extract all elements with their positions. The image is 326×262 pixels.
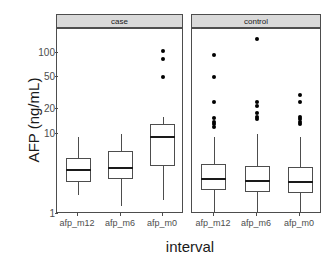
outlier-point bbox=[255, 37, 259, 41]
facet-strip-control: control bbox=[191, 14, 321, 28]
box-median-line bbox=[245, 180, 270, 182]
x-axis-tick-label: afp_m12 bbox=[59, 218, 94, 228]
y-axis-tick-label: 10 bbox=[44, 127, 55, 138]
outlier-point bbox=[212, 75, 216, 79]
box-median-line bbox=[66, 169, 91, 171]
x-axis-tick-mark bbox=[77, 213, 78, 216]
box-whisker-upper bbox=[214, 137, 215, 164]
box-whisker-lower bbox=[214, 190, 215, 213]
outlier-point bbox=[161, 75, 165, 79]
box-whisker-upper bbox=[300, 137, 301, 167]
outlier-point bbox=[212, 100, 216, 104]
y-axis-tick-mark bbox=[55, 52, 58, 53]
x-axis-tick-label: afp_m0 bbox=[284, 218, 314, 228]
y-axis-tick-label: 50 bbox=[44, 71, 55, 82]
outlier-point bbox=[212, 53, 216, 57]
boxplot-chart: AFP (ng/mL) 1102050100 case control inte… bbox=[0, 0, 326, 262]
box-whisker-upper bbox=[257, 134, 258, 166]
outlier-point bbox=[255, 100, 259, 104]
facet-panel-case bbox=[56, 28, 183, 213]
x-axis-tick-label: afp_m0 bbox=[147, 218, 177, 228]
box-median-line bbox=[150, 136, 175, 138]
box-whisker-lower bbox=[163, 166, 164, 200]
y-axis-tick-mark bbox=[55, 108, 58, 109]
x-axis-tick-label: afp_m6 bbox=[105, 218, 135, 228]
x-axis-tick-mark bbox=[299, 213, 300, 216]
y-axis-tick-mark bbox=[55, 213, 58, 214]
box-whisker-upper bbox=[163, 117, 164, 124]
x-axis-tick-label: afp_m12 bbox=[195, 218, 230, 228]
box-whisker-lower bbox=[78, 182, 79, 195]
outlier-point bbox=[212, 116, 216, 120]
box-whisker-lower bbox=[257, 192, 258, 213]
outlier-point bbox=[298, 93, 302, 97]
box-median-line bbox=[108, 167, 133, 169]
outlier-point bbox=[212, 120, 216, 124]
outlier-point bbox=[255, 111, 259, 115]
box-iqr bbox=[150, 124, 175, 165]
outlier-point bbox=[161, 57, 165, 61]
x-axis-title: interval bbox=[55, 238, 325, 256]
x-axis-tick-mark bbox=[256, 213, 257, 216]
facet-strip-case: case bbox=[56, 14, 183, 28]
y-axis-tick-label: 20 bbox=[44, 103, 55, 114]
box-iqr bbox=[245, 166, 270, 192]
x-axis-tick-label: afp_m6 bbox=[241, 218, 271, 228]
outlier-point bbox=[298, 115, 302, 119]
outlier-point bbox=[255, 104, 259, 108]
box-whisker-upper bbox=[78, 137, 79, 158]
y-axis-tick-mark bbox=[55, 76, 58, 77]
box-whisker-lower bbox=[300, 193, 301, 213]
outlier-point bbox=[298, 100, 302, 104]
box-whisker-lower bbox=[121, 179, 122, 206]
x-axis-tick-mark bbox=[120, 213, 121, 216]
box-iqr bbox=[201, 164, 226, 190]
outlier-point bbox=[161, 49, 165, 53]
box-iqr bbox=[108, 151, 133, 179]
y-axis-tick-mark bbox=[55, 133, 58, 134]
outlier-point bbox=[255, 115, 259, 119]
x-axis-tick-mark bbox=[162, 213, 163, 216]
box-median-line bbox=[288, 181, 313, 183]
box-median-line bbox=[201, 178, 226, 180]
y-axis-tick-label: 100 bbox=[38, 47, 55, 58]
x-axis-tick-mark bbox=[213, 213, 214, 216]
facet-panel-control bbox=[191, 28, 321, 213]
y-axis-tick-labels: 1102050100 bbox=[30, 0, 55, 262]
box-whisker-upper bbox=[121, 134, 122, 152]
